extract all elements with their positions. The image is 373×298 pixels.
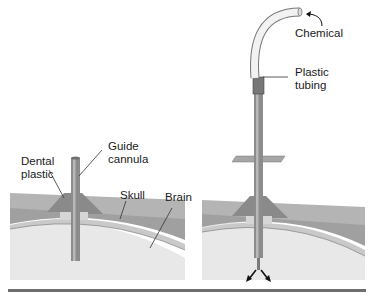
- label-plastic-tubing: Plastic tubing: [295, 66, 329, 92]
- label-dental-plastic: Dental plastic: [21, 155, 54, 181]
- cannula-diagram: Guide cannula Dental plastic Skull Brain…: [0, 0, 373, 298]
- plastic-tubing-connector: [253, 77, 264, 94]
- diagram-graphic: [0, 0, 373, 298]
- label-chemical: Chemical: [295, 27, 343, 40]
- right-panel: [202, 8, 365, 282]
- label-skull: Skull: [120, 189, 145, 202]
- label-brain: Brain: [165, 191, 192, 204]
- label-guide-cannula: Guide cannula: [108, 140, 148, 166]
- plastic-tubing: [255, 12, 300, 78]
- bottom-rule: [8, 289, 366, 292]
